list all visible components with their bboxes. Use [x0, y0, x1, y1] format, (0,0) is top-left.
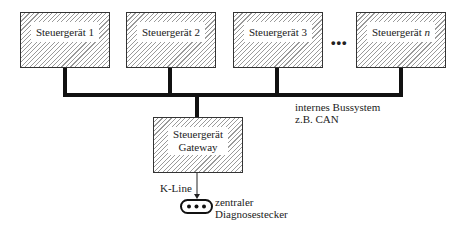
gateway-line1: Steuergerät	[173, 128, 223, 141]
ecu-label-3: Steuergerät 3	[244, 22, 312, 42]
ecu-box-n: Steuergerät n	[356, 12, 446, 68]
ecu-label-n-text: Steuergerät	[372, 26, 422, 39]
bus-label-2: z.B. CAN	[295, 113, 339, 125]
ecu-label-n: Steuergerät n	[367, 22, 435, 42]
ecu-box-3: Steuergerät 3	[233, 12, 323, 68]
bus-label-1: internes Bussystem	[295, 101, 380, 113]
ellipsis: •••	[331, 37, 348, 49]
ecu-box-1: Steuergerät 1	[20, 12, 110, 68]
gateway-label: Steuergerät Gateway	[168, 127, 228, 155]
ecu-label-2: Steuergerät 2	[137, 22, 205, 42]
connector-label-1: zentraler	[215, 196, 253, 208]
connector-label-2: Diagnosestecker	[215, 208, 288, 220]
gateway-line2: Gateway	[178, 141, 217, 154]
ecu-label-n-suffix: n	[425, 26, 431, 39]
gateway-box: Steuergerät Gateway	[153, 117, 243, 173]
kline-label: K-Line	[160, 182, 192, 194]
ecu-box-2: Steuergerät 2	[126, 12, 216, 68]
ecu-label-1: Steuergerät 1	[31, 22, 99, 42]
